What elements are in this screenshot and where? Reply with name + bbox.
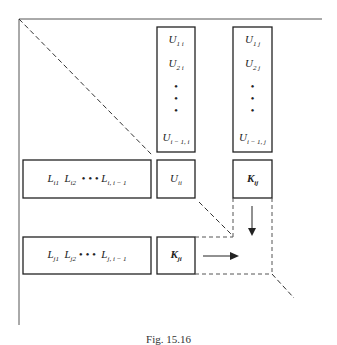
u-1j: U1 j	[233, 33, 272, 48]
down-arrow-head	[248, 228, 256, 236]
figure-caption: Fig. 15.16	[0, 333, 337, 345]
u-2j: U2 j	[233, 57, 272, 72]
diagonal-upper	[19, 19, 152, 155]
ellipsis-i: •••	[157, 80, 195, 116]
u-im1-i: Ui − 1, i	[157, 131, 195, 146]
u-2i: U2 i	[157, 57, 195, 72]
u-ii-label: Uii	[157, 172, 195, 187]
diagonal-middle	[199, 202, 233, 236]
u-im1-j: Ui − 1, j	[233, 131, 272, 146]
row-l-j-label: Lj1 Lj2 • • • Lj, i − 1	[23, 248, 151, 263]
k-ji-label: Kji	[157, 248, 195, 263]
ellipsis-j: •••	[233, 80, 272, 116]
right-arrow-head	[230, 252, 239, 260]
k-ij-label: Kij	[233, 172, 272, 187]
diagonal-lower	[272, 274, 294, 298]
u-1i: U1 i	[157, 33, 195, 48]
row-l-i-label: Li1 Li2 • • • Li, i − 1	[23, 172, 151, 187]
